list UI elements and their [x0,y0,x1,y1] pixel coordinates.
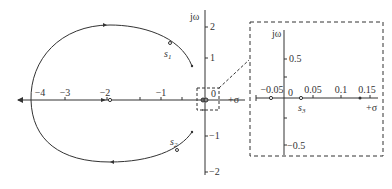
arrow-icon [103,23,107,27]
point-s1-label: s1 [164,48,171,61]
tick-label-x: −2 [100,87,111,98]
inset-tick-label-x: 0.1 [335,84,348,95]
inset-imag-axis-label: jω [271,28,282,39]
inset-tick-label-y: 0.5 [289,53,302,64]
inset-zero-marker [269,96,272,99]
real-axis-label: +σ [228,94,240,105]
inset-tick-label-x: 0.15 [358,84,376,95]
tick-label-x: −3 [60,87,71,98]
zoom-leader-line [219,60,249,88]
zero-marker [108,98,111,101]
point-s1 [169,42,172,45]
point-s3-label: s3 [298,102,306,115]
origin-label: 0 [211,88,216,99]
arrow-icon [110,160,114,164]
tick-label-y: 1 [210,52,215,63]
root-locus-diagram: −4 −3 −2 −1 2 1 −1 −2 jω +σ 0 s1 s2 [0,0,392,189]
point-s3 [299,96,302,99]
tick-label-y: 2 [210,21,215,32]
inset-tick-label-x: 0.05 [304,84,322,95]
imag-axis-label: jω [189,11,200,22]
inset-plot: −0.05 0.05 0.1 0.15 0.5 −0.5 jω +σ 0 s3 [250,22,383,156]
inset-pole-marker [359,97,362,100]
tick-label-y: −2 [209,166,220,177]
main-plot: −4 −3 −2 −1 2 1 −1 −2 jω +σ 0 s1 s2 [18,10,249,177]
tick-label-x: −4 [35,87,46,98]
inset-tick-label-x: −0.05 [260,84,283,95]
inset-tick-label-y: −0.5 [287,140,305,151]
tick-label-y: −1 [209,130,220,141]
locus-circle [31,25,192,162]
inset-origin-label: 0 [288,87,293,98]
arrow-icon [101,98,106,102]
inset-real-axis-label: +σ [366,102,378,113]
tick-label-x: −1 [156,87,167,98]
point-s2-label: s2 [170,136,178,149]
